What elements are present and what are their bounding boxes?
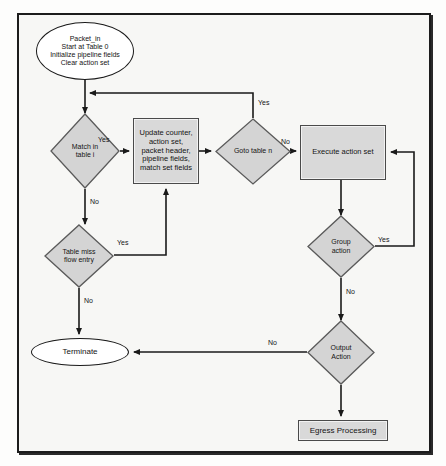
node-group-action[interactable]: Group action <box>307 215 375 278</box>
edge-label-goto-yes: Yes <box>258 99 269 106</box>
edge-label-group-yes: Yes <box>378 236 389 243</box>
flowchart-canvas: Packet_in Start at Table 0 Initialize pi… <box>0 0 446 466</box>
node-terminate[interactable]: Terminate <box>31 338 129 366</box>
edge-label-match-yes: Yes <box>98 136 109 143</box>
node-execute-action-set[interactable]: Execute action set <box>300 125 386 180</box>
node-table-miss[interactable]: Table miss flow entry <box>44 224 114 288</box>
node-egress-processing[interactable]: Egress Processing <box>298 420 388 441</box>
node-goto-table[interactable]: Goto table n <box>215 118 291 185</box>
edge-label-group-no: No <box>346 288 355 295</box>
edge-label-output-no: No <box>268 339 277 346</box>
node-output-action[interactable]: Output Action <box>307 320 375 385</box>
edge-label-match-no: No <box>90 198 99 205</box>
node-update-counter[interactable]: Update counter, action set, packet heade… <box>133 118 199 184</box>
edge-label-goto-no: No <box>281 138 290 145</box>
edge-label-tablemiss-yes: Yes <box>117 239 128 246</box>
node-match-in-table[interactable]: Match in table i <box>50 113 120 189</box>
edge-label-tablemiss-no: No <box>84 297 93 304</box>
node-packet-in[interactable]: Packet_in Start at Table 0 Initialize pi… <box>36 22 134 80</box>
